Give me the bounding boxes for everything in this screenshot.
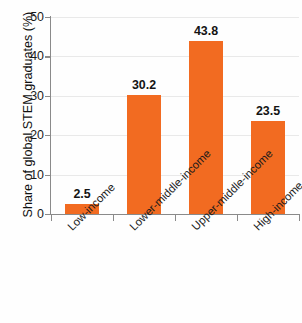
y-tick-label: 50 xyxy=(14,11,44,23)
x-tick-mark xyxy=(51,215,52,221)
cropped-chart-title xyxy=(62,0,182,1)
y-tick-label: 0 xyxy=(14,208,44,220)
bar-chart: Share of global STEM graduates (%) 01020… xyxy=(0,0,302,323)
y-tick-label: 10 xyxy=(14,169,44,181)
y-tick-label: 30 xyxy=(14,90,44,102)
bar-value-label: 23.5 xyxy=(238,105,298,117)
x-tick-mark xyxy=(175,215,176,221)
gridline xyxy=(51,96,299,97)
y-tick-label: 20 xyxy=(14,129,44,141)
bar xyxy=(189,41,223,214)
bar-value-label: 43.8 xyxy=(176,25,236,37)
gridline xyxy=(51,56,299,57)
y-tick-mark xyxy=(45,56,51,57)
bar-value-label: 30.2 xyxy=(114,79,174,91)
y-tick-mark xyxy=(45,96,51,97)
y-tick-mark xyxy=(45,175,51,176)
x-tick-mark xyxy=(237,215,238,221)
gridline xyxy=(51,17,299,18)
y-tick-label: 40 xyxy=(14,50,44,62)
y-tick-mark xyxy=(45,135,51,136)
y-tick-mark xyxy=(45,17,51,18)
x-tick-mark xyxy=(299,215,300,221)
x-tick-mark xyxy=(113,215,114,221)
y-axis-title: Share of global STEM graduates (%) xyxy=(21,13,35,218)
